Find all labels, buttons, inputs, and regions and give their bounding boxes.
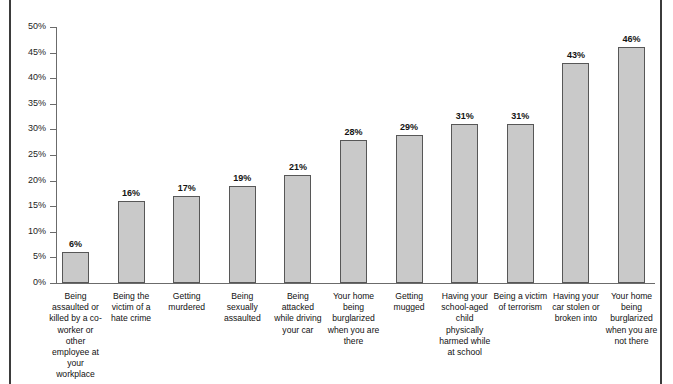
bar-value-label: 31% (497, 111, 544, 121)
bar (340, 140, 367, 283)
bar-value-label: 21% (274, 162, 321, 172)
bar-value-label: 46% (608, 34, 655, 44)
y-axis-tick (50, 78, 57, 79)
y-axis-tick (50, 181, 57, 182)
y-axis-tick-label: 10% (0, 227, 46, 236)
y-axis-tick-label: 50% (0, 22, 46, 31)
y-axis-tick (50, 129, 57, 130)
x-axis-line (56, 283, 655, 284)
x-axis-category-label: Being a victim of terrorism (493, 291, 547, 313)
bar-value-label: 43% (552, 50, 599, 60)
bar-value-label: 17% (163, 183, 210, 193)
plot-area: 50%45%40%35%30%25%20%15%10%5%0% 6%16%17%… (0, 0, 673, 384)
bar (118, 201, 145, 283)
y-axis-tick-label: 45% (0, 48, 46, 57)
y-axis-tick (50, 104, 57, 105)
y-axis-tick (50, 53, 57, 54)
bar (229, 186, 256, 283)
x-axis-category-label: Having your car stolen or broken into (549, 291, 603, 325)
x-axis-category-label: Getting mugged (382, 291, 436, 313)
bar (62, 252, 89, 283)
bar-chart-figure: 50%45%40%35%30%25%20%15%10%5%0% 6%16%17%… (0, 0, 673, 384)
y-axis-tick-label: 25% (0, 150, 46, 159)
bar (618, 47, 645, 283)
y-axis-tick (50, 206, 57, 207)
y-axis-tick (50, 283, 57, 284)
bar-value-label: 29% (386, 122, 433, 132)
y-axis-tick-label: 0% (0, 278, 46, 287)
x-axis-category-label: Being sexually assaulted (215, 291, 269, 325)
y-axis-tick (50, 27, 57, 28)
bar-value-label: 19% (219, 173, 266, 183)
x-axis-category-label: Your home being burglarized when you are… (605, 291, 659, 347)
bar (562, 63, 589, 283)
x-axis-category-label: Getting murdered (160, 291, 214, 313)
x-axis-category-label: Being the victim of a hate crime (104, 291, 158, 325)
x-axis-category-label: Being attacked while driving your car (271, 291, 325, 336)
y-axis-tick-label: 35% (0, 99, 46, 108)
y-axis-tick-label: 5% (0, 252, 46, 261)
bar-value-label: 28% (330, 127, 377, 137)
y-axis-tick-label: 15% (0, 201, 46, 210)
y-axis-tick-label: 30% (0, 124, 46, 133)
bar-value-label: 6% (52, 239, 99, 249)
bar (284, 175, 311, 283)
bar (451, 124, 478, 283)
y-axis-tick-label: 20% (0, 176, 46, 185)
y-axis-tick (50, 257, 57, 258)
y-axis-tick (50, 155, 57, 156)
bar-value-label: 31% (441, 111, 488, 121)
bar (173, 196, 200, 283)
x-axis-category-label: Your home being burglarized when you are… (327, 291, 381, 347)
y-axis-tick-label: 40% (0, 73, 46, 82)
bar (507, 124, 534, 283)
x-axis-category-label: Having your school-aged child physically… (438, 291, 492, 358)
x-axis-category-label: Being assaulted or killed by a co-worker… (49, 291, 103, 381)
y-axis-tick (50, 232, 57, 233)
bar-value-label: 16% (108, 188, 155, 198)
bar (396, 135, 423, 283)
